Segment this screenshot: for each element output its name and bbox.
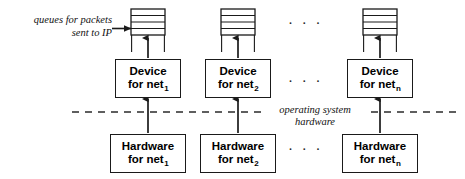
hardware-box-2: Hardware for net2 xyxy=(200,134,276,173)
device-box-3-line2: for netn xyxy=(360,78,401,93)
device-box-1-line1: Device xyxy=(129,65,166,79)
hardware-box-1-line2-prefix: for net xyxy=(128,153,164,165)
hardware-box-2-line2-prefix: for net xyxy=(218,153,254,165)
hardware-box-1-subscript: 1 xyxy=(164,159,168,168)
divider-label-line2: hardware xyxy=(295,116,335,127)
divider-label-line1: operating system xyxy=(279,104,350,115)
device-box-1-line2: for net1 xyxy=(128,78,168,93)
device-box-2-line2-prefix: for net xyxy=(218,78,254,90)
device-box-1-line2-prefix: for net xyxy=(128,78,164,90)
os-hardware-divider-label: operating system hardware xyxy=(262,104,368,128)
hardware-box-3: Hardware for netn xyxy=(342,134,418,173)
device-box-3-line1: Device xyxy=(361,65,398,79)
hardware-box-1-line2: for net1 xyxy=(128,153,168,168)
device-box-1: Device for net1 xyxy=(115,59,181,98)
hardware-box-1-line1: Hardware xyxy=(122,140,174,154)
hardware-box-1: Hardware for net1 xyxy=(110,134,186,173)
device-box-3: Device for netn xyxy=(347,59,413,98)
hardware-box-3-line2-prefix: for net xyxy=(360,153,396,165)
device-box-3-line2-prefix: for net xyxy=(360,78,396,90)
device-box-2-line1: Device xyxy=(219,65,256,79)
device-box-2-subscript: 2 xyxy=(254,84,258,93)
network-stack-diagram: queues for packets sent to IP operating … xyxy=(0,0,465,179)
device-box-1-subscript: 1 xyxy=(164,84,168,93)
device-box-2-line2: for net2 xyxy=(218,78,258,93)
hardware-box-2-line2: for net2 xyxy=(218,153,258,168)
hardware-box-3-subscript: n xyxy=(396,159,401,168)
queues-caption: queues for packets sent to IP xyxy=(0,13,112,39)
hardware-box-2-line1: Hardware xyxy=(212,140,264,154)
hardware-box-2-subscript: 2 xyxy=(254,159,258,168)
hardware-box-3-line1: Hardware xyxy=(354,140,406,154)
ellipsis-hardware-row: · · · xyxy=(288,142,323,157)
queues-caption-line2: sent to IP xyxy=(72,27,112,38)
ellipsis-queue-row: · · · xyxy=(288,16,323,31)
ellipsis-device-row: · · · xyxy=(288,74,323,89)
queues-caption-line1: queues for packets xyxy=(34,14,112,25)
device-box-2: Device for net2 xyxy=(205,59,271,98)
hardware-box-3-line2: for netn xyxy=(360,153,401,168)
device-box-3-subscript: n xyxy=(396,84,401,93)
